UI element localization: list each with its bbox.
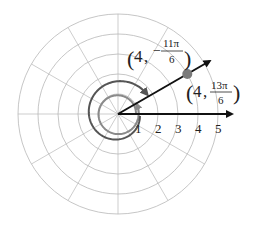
axis-tick-label: 5 — [215, 121, 222, 136]
axis-tick-label: 4 — [195, 121, 202, 136]
svg-text:−: − — [153, 43, 161, 58]
grid-spoke — [31, 114, 118, 164]
svg-text:4: 4 — [193, 82, 202, 101]
axis-tick-label: 3 — [175, 121, 182, 136]
svg-text:): ) — [233, 80, 240, 105]
svg-text:13π: 13π — [211, 79, 228, 91]
label-positive-angle: ( 4 , 13π 6 ) — [186, 79, 240, 106]
svg-text:,: , — [144, 47, 148, 66]
svg-text:4: 4 — [134, 47, 143, 66]
svg-text:,: , — [203, 82, 207, 101]
svg-text:11π: 11π — [163, 37, 180, 49]
svg-text:): ) — [184, 46, 191, 71]
axis-tick-label: 2 — [155, 121, 162, 136]
svg-text:6: 6 — [218, 94, 224, 106]
grid-spoke — [68, 27, 118, 114]
grid-spoke — [118, 27, 168, 114]
axis-tick-label: 1 — [135, 121, 142, 136]
axis-tick-labels: 12345 — [135, 121, 222, 136]
svg-text:6: 6 — [169, 53, 175, 65]
grid-spoke — [31, 64, 118, 114]
polar-diagram: 12345 ( 4 , − 11π 6 ) ( 4 , 13π 6 ) — [0, 0, 258, 247]
